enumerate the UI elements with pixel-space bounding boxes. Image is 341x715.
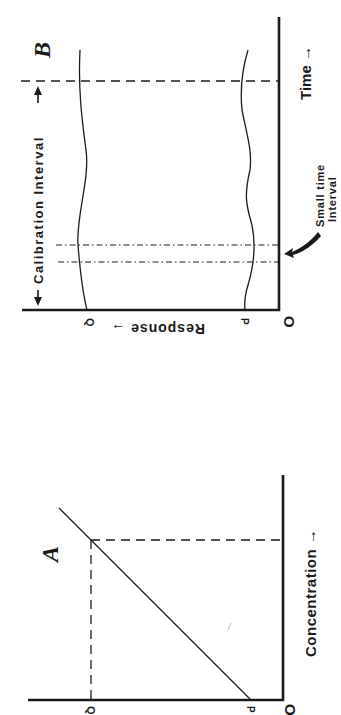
panel-a-origin-label: O	[282, 704, 299, 715]
panel-b-response-label: Response →	[110, 321, 205, 337]
scan-artifact	[228, 623, 231, 630]
panel-b-q-curve	[78, 50, 87, 310]
curved-arrow-icon	[284, 232, 321, 258]
small-interval-label-line2: Interval	[326, 176, 338, 222]
calibration-interval-label: Calibration Interval	[31, 136, 46, 284]
panel-b-time-label: Time →	[297, 46, 314, 100]
small-interval-label-line1: Small time	[314, 164, 326, 227]
panel-a-p-label: P	[245, 706, 256, 713]
panel-b-origin-label: O	[281, 316, 298, 328]
arrow-down-icon	[34, 297, 42, 306]
panel-b-p-label: P	[239, 318, 250, 325]
panel-a-concentration-label: Concentration →	[302, 529, 319, 657]
panel-b-letter: B	[29, 42, 55, 59]
panel-a-calibration-line	[59, 508, 250, 699]
panel-a-letter: A	[37, 546, 63, 564]
figure-canvas: Calibration Interval B Time → Small time…	[0, 0, 341, 715]
arrow-up-icon	[34, 86, 42, 95]
panel-b: Calibration Interval B Time → Small time…	[21, 17, 338, 337]
panel-b-p-curve	[241, 50, 254, 310]
panel-a: A Concentration → Q P O	[28, 475, 319, 715]
panel-a-q-label: Q	[85, 706, 97, 715]
panel-b-q-label: Q	[84, 318, 96, 327]
